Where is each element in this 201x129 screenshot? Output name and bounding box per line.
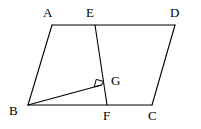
vertex-label-b: B — [9, 104, 18, 117]
segment-ab — [28, 25, 52, 105]
vertex-label-f: F — [103, 109, 110, 122]
right-angle-marker-icon — [94, 79, 103, 87]
vertex-label-d: D — [170, 6, 179, 19]
vertex-label-g: G — [111, 74, 120, 87]
vertex-label-e: E — [86, 6, 94, 19]
segment-ef — [95, 25, 107, 105]
geometry-figure: A E D B F C G — [0, 0, 201, 129]
vertex-label-c: C — [148, 109, 157, 122]
segment-bg — [28, 85, 102, 105]
segment-dc — [152, 25, 175, 105]
vertex-label-a: A — [43, 6, 52, 19]
